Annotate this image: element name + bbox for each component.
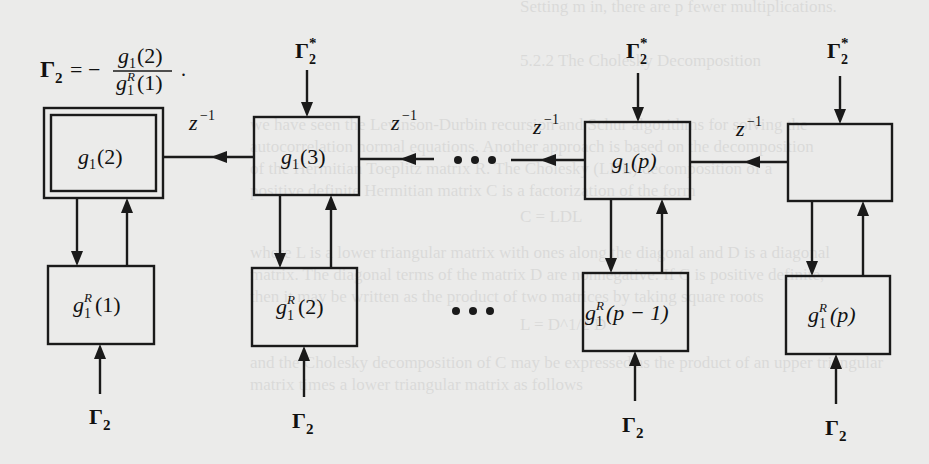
box-g1-empty [788,124,892,201]
gamma-subscript: 2 [55,70,63,86]
ghost-line: then it may be written as the product of… [250,287,764,306]
box-label-sup: R [83,290,92,305]
box-label-arg: (p) [830,302,856,327]
gamma-star-sup: * [640,35,648,51]
arrow-down-icon [834,109,846,124]
box-label-arg: (p) [631,148,657,173]
gamma-sub: 2 [636,425,644,441]
ghost-line: C = LDL [520,207,582,226]
gamma-symbol: Γ [40,56,55,82]
schur-lattice-diagram: Setting m in, there are p fewer multipli… [0,0,929,464]
denominator-sup: R [126,69,135,84]
box-g1-2: g 1 (2) [44,108,163,198]
gamma-star-base: Γ [295,38,309,63]
ellipsis-bottom [452,307,494,315]
arrow-up-icon [857,201,869,216]
ghost-line: positive definite Hermitian matrix C is … [250,181,696,200]
gamma-star-sup: * [841,35,849,51]
arrow-up-icon [121,198,133,213]
z-exponent: −1 [747,114,762,129]
box-label-sub: 1 [287,308,294,323]
box-label-sub: 1 [819,316,826,331]
z-symbol: z [532,114,542,139]
gamma-star-sup: * [309,35,317,51]
denominator-sub: 1 [127,83,134,98]
box-label-sup: R [818,300,827,315]
box-gR1-p: g R 1 (p) [786,276,890,354]
bottom-input-gR11: Γ 2 [89,344,111,433]
box-label-sub: 1 [84,306,91,321]
arrow-up-icon [94,344,106,359]
box-label-sup: R [595,298,604,313]
box-label-sub: 1 [292,157,299,172]
top-input-right: Γ * 2 [827,35,849,124]
box-label-g: g [78,144,89,169]
box-label-g: g [808,302,819,327]
numerator-g: g [118,43,129,68]
z-symbol: z [188,110,198,135]
box-label-arg: (2) [97,144,123,169]
box-label-g: g [585,300,596,325]
gamma-sub: 2 [103,417,111,433]
arrow-down-icon [71,251,83,266]
z-exponent: −1 [200,108,215,123]
vertical-links [71,195,869,276]
gamma-base: Γ [89,404,103,429]
ghost-line: autocorrelation normal equations. Anothe… [250,137,814,156]
box-label-arg: (1) [95,292,121,317]
box-gR1-1: g R 1 (1) [48,266,154,344]
gamma-equation: Γ 2 = − g 1 (2) g R 1 (1) . [40,43,186,98]
z-exponent: −1 [402,108,417,123]
box-label-g: g [276,294,287,319]
gamma-star-sub: 2 [640,52,647,67]
box-label-g: g [612,148,623,173]
box-label-arg: (2) [298,294,324,319]
denominator-arg: (1) [137,70,163,95]
denominator-g: g [116,70,127,95]
box-label-sub: 1 [596,314,603,329]
ghost-line: where L is a lower triangular matrix wit… [250,243,830,262]
period: . [181,58,186,80]
box-label-sub: 1 [623,161,630,176]
ghost-line: Setting m in, there are p fewer multipli… [520,0,837,16]
gamma-base: Γ [825,415,839,440]
gamma-sub: 2 [839,428,847,444]
box-label-arg: (p − 1) [606,300,669,325]
diagram-canvas: Setting m in, there are p fewer multipli… [0,0,929,464]
box-label-sup: R [286,292,295,307]
top-input-g1p: Γ * 2 [626,35,648,122]
gamma-sub: 2 [306,421,314,437]
box-label-sub: 1 [89,157,96,172]
box-label-arg: (3) [300,144,326,169]
z-exponent: −1 [544,112,559,127]
delay-label-1: z −1 [188,108,215,135]
gamma-base: Γ [622,412,636,437]
equals-minus: = − [70,57,100,82]
arrow-left-icon [211,151,227,163]
ghost-line: matrix times a lower triangular matrix a… [250,375,583,394]
box-border [788,124,892,201]
box-label-g: g [73,292,84,317]
gamma-star-base: Γ [626,38,640,63]
gamma-star-sub: 2 [309,52,316,67]
gamma-star-sub: 2 [841,52,848,67]
numerator-arg: (2) [137,43,163,68]
z-symbol: z [735,116,745,141]
box-label-g: g [281,144,292,169]
ellipsis-top [454,156,496,164]
ghost-line: and the Cholesky decomposition of C may … [250,353,883,372]
z-symbol: z [390,110,400,135]
box-gR1-p-minus-1: g R 1 (p − 1) [583,273,688,351]
arrow-up-icon [656,199,668,214]
gamma-star-base: Γ [827,38,841,63]
gamma-base: Γ [292,408,306,433]
delay-label-3: z −1 [532,112,559,139]
top-input-g13: Γ * 2 [295,35,317,117]
